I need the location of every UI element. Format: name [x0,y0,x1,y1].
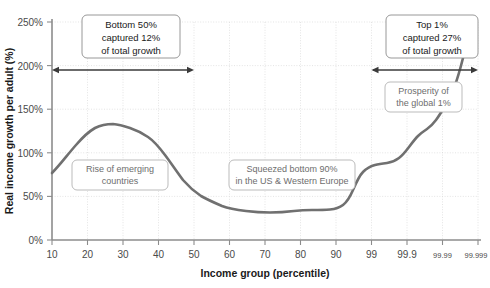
chart-canvas: 250% 200% 150% 100% 50% 0% 10 20 30 40 5… [0,0,490,288]
callout-prosperity-line1: Prosperity of [398,86,449,96]
callout-squeezed-bottom-90: Squeezed bottom 90% in the US & Western … [229,160,355,190]
callout-rise-of-emerging: Rise of emerging countries [72,160,168,190]
x-tick-label-60: 60 [224,249,236,260]
x-tick-label-90: 90 [330,249,342,260]
x-tick-label-30: 30 [117,249,129,260]
y-axis-title: Real income growth per adult (%) [3,48,15,214]
x-tick-label-99-99: 99.99 [433,251,452,260]
callout-squeezed-line2: in the US & Western Europe [236,176,349,186]
callout-top-1: Top 1% captured 27% of total growth [386,15,478,58]
callout-top-1-line1: Top 1% [416,19,448,30]
y-tick-label-200: 200% [17,61,43,72]
arrow-head-right-top1 [471,67,478,73]
x-tick-label-99-9: 99.9 [397,249,417,260]
x-axis-title: Income group (percentile) [201,267,330,279]
y-tick-label-0: 0% [29,235,44,246]
x-tick-label-50: 50 [188,249,200,260]
y-tick-label-100: 100% [17,148,43,159]
callout-bottom-50-line1: Bottom 50% [105,19,157,30]
x-tick-label-40: 40 [153,249,165,260]
callout-bottom-50: Bottom 50% captured 12% of total growth [82,15,180,58]
callout-emerging-line2: countries [102,176,139,186]
arrow-head-left-bottom50 [52,67,59,73]
callout-emerging-line1: Rise of emerging [86,164,154,174]
y-tick-labels: 250% 200% 150% 100% 50% 0% [17,17,43,246]
callout-bottom-50-line3: of total growth [101,45,161,56]
callout-top-1-line3: of total growth [402,45,462,56]
x-tick-labels: 10 20 30 40 50 60 70 80 90 99 99.9 99.99… [46,249,487,260]
x-tick-label-10: 10 [46,249,58,260]
arrow-head-left-top1 [372,67,379,73]
elephant-curve-chart: 250% 200% 150% 100% 50% 0% 10 20 30 40 5… [0,0,490,288]
callout-prosperity-global-1: Prosperity of the global 1% [385,82,462,112]
x-tick-label-80: 80 [295,249,307,260]
arrow-head-right-bottom50 [187,67,194,73]
callout-top-1-line2: captured 27% [403,32,462,43]
x-tick-label-99: 99 [366,249,378,260]
callout-squeezed-line1: Squeezed bottom 90% [246,164,337,174]
y-tick-label-250: 250% [17,17,43,28]
x-tick-label-99-999: 99.999 [465,251,488,260]
x-tick-label-20: 20 [82,249,94,260]
top-1-span-arrow [372,67,479,73]
callout-bottom-50-line2: captured 12% [102,32,161,43]
x-tick-label-70: 70 [259,249,271,260]
y-tick-label-150: 150% [17,104,43,115]
callout-prosperity-line2: the global 1% [396,98,451,108]
y-tick-label-50: 50% [23,191,43,202]
